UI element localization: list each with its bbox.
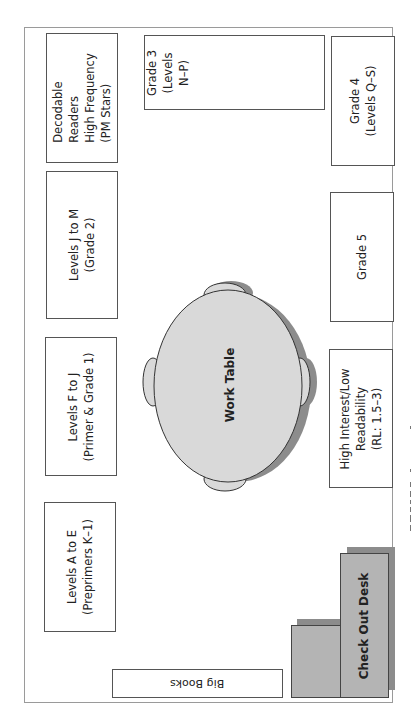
- work-table: Work Table: [140, 270, 320, 500]
- shelf-grade-3: Grade 3 (Levels N–P): [144, 35, 325, 110]
- shelf-label: Levels A to E (Preprimers K–1): [64, 519, 96, 615]
- shelf-grade-5: Grade 5: [330, 192, 394, 322]
- shelf-label: Levels F to J (Primer & Grade 1): [65, 352, 97, 461]
- shelf-grade-4: Grade 4 (Levels Q–S): [331, 36, 395, 166]
- check-out-desk: Check Out Desk: [340, 553, 389, 698]
- work-table-label: Work Table: [222, 348, 238, 423]
- shelf-levels-a-to-e: Levels A to E (Preprimers K–1): [44, 502, 116, 632]
- side-desk: [291, 625, 341, 698]
- shelf-label: Grade 3 (Levels N–P): [144, 49, 192, 95]
- check-out-desk-label: Check Out Desk: [357, 572, 373, 679]
- shelf-decodable-readers: Decodable Readers High Frequency (PM Sta…: [46, 33, 118, 163]
- figure-caption-fragment: [408, 420, 414, 540]
- shelf-label: High Interest/Low Readability (RL: 1.5–3…: [337, 368, 385, 469]
- shelf-label: Decodable Readers High Frequency (PM Sta…: [50, 53, 114, 143]
- shelf-big-books: Big Books: [112, 669, 283, 698]
- shelf-high-interest-low-readability: High Interest/Low Readability (RL: 1.5–3…: [329, 349, 393, 488]
- shelf-label: Grade 5: [354, 234, 370, 280]
- shelf-label: Grade 4 (Levels Q–S): [347, 65, 379, 136]
- shelf-levels-j-to-m: Levels J to M (Grade 2): [46, 171, 118, 319]
- shelf-label: Big Books: [170, 677, 224, 690]
- shelf-levels-f-to-j: Levels F to J (Primer & Grade 1): [45, 337, 117, 476]
- shelf-label: Levels J to M (Grade 2): [66, 209, 98, 281]
